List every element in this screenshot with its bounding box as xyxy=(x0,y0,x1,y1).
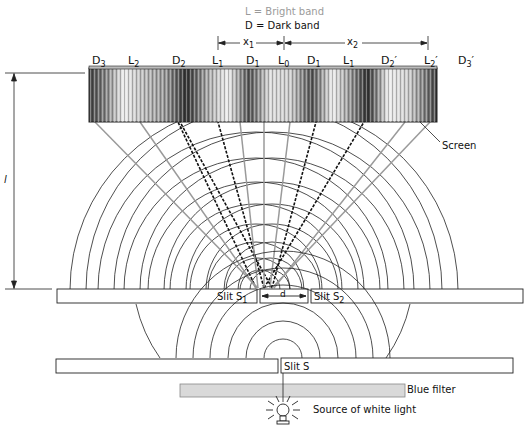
band-label-d1: D1 xyxy=(246,54,260,69)
band-label-l2-prime: L2′ xyxy=(424,54,438,69)
x1-label: x1 xyxy=(243,36,254,50)
double-slit-barrier xyxy=(57,289,523,303)
bright-rays xyxy=(95,122,430,288)
band-label-l1-right: L1 xyxy=(343,54,354,69)
band-label-l1: L1 xyxy=(212,54,223,69)
slit-s-label: Slit S xyxy=(284,361,309,372)
blue-filter-label: Blue filter xyxy=(407,384,456,395)
source-label: Source of white light xyxy=(313,404,416,415)
band-label-d3: D3 xyxy=(92,54,106,69)
d-label: d xyxy=(280,289,286,299)
interference-diagram xyxy=(0,0,531,439)
legend-bright: L = Bright band xyxy=(245,6,324,17)
x2-label: x2 xyxy=(347,36,358,50)
band-label-l2: L2 xyxy=(128,54,139,69)
band-label-d2-prime: D2′ xyxy=(381,54,397,69)
band-label-d3-prime: D3′ xyxy=(458,54,474,69)
band-label-d2: D2 xyxy=(172,54,186,69)
slit-s1-label: Slit S1 xyxy=(217,291,247,305)
screen-label: Screen xyxy=(442,140,476,151)
blue-filter xyxy=(180,373,405,402)
band-label-l0: L0 xyxy=(278,54,289,69)
l-label: l xyxy=(4,174,7,185)
slit-s2-label: Slit S2 xyxy=(314,291,344,305)
band-label-d1-right: D1 xyxy=(307,54,321,69)
legend-dark: D = Dark band xyxy=(245,20,320,31)
